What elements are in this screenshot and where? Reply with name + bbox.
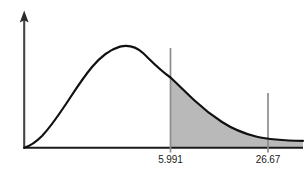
tick-label-test-statistic: 26.67 <box>256 154 281 165</box>
rejection-region-shading <box>171 78 304 148</box>
chart-figure: 5.991 26.67 <box>0 0 307 177</box>
distribution-chart-canvas <box>0 0 307 177</box>
chi-square-density-curve <box>24 46 303 148</box>
tick-label-critical-value: 5.991 <box>158 154 183 165</box>
